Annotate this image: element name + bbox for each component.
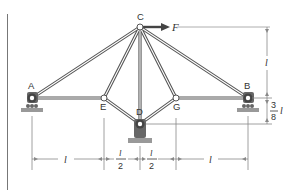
node-label-G: G — [173, 101, 180, 112]
dim-AE-l: l — [64, 154, 67, 165]
force-arrow-F — [142, 23, 270, 31]
dim-DG-half-l: l 2 — [147, 148, 157, 171]
svg-text:3: 3 — [271, 100, 276, 110]
support-B-roller — [237, 92, 259, 112]
dim-ED-half-l: l 2 — [116, 148, 126, 171]
joint-C — [137, 24, 143, 30]
svg-text:l: l — [119, 148, 122, 158]
svg-text:l: l — [280, 105, 283, 116]
svg-text:2: 2 — [118, 161, 123, 171]
svg-text:l: l — [150, 148, 153, 158]
svg-text:2: 2 — [149, 161, 154, 171]
node-label-A: A — [28, 80, 35, 91]
dim-GB-l: l — [209, 154, 212, 165]
support-A-roller — [21, 92, 43, 112]
node-label-C: C — [137, 11, 144, 22]
support-D-pin — [128, 119, 152, 143]
force-label: F — [171, 21, 179, 33]
node-label-D: D — [136, 106, 143, 117]
dim-vertical-3-8-l: 3 8 l — [270, 100, 283, 122]
svg-text:8: 8 — [271, 112, 276, 122]
truss-figure: F A B C D E G — [0, 0, 303, 194]
node-label-B: B — [244, 80, 250, 91]
node-label-E: E — [100, 101, 106, 112]
dim-vertical-l: l — [265, 57, 268, 68]
